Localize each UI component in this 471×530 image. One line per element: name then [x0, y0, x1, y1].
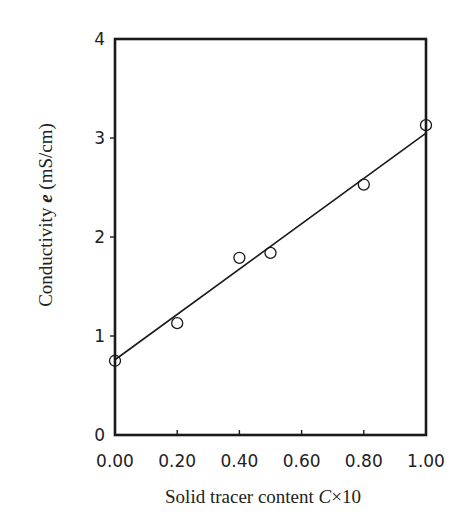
x-tick-label: 1.00: [407, 451, 445, 471]
x-tick-label: 0.40: [220, 451, 258, 471]
y-tick-label: 1: [94, 326, 105, 346]
y-axis-title: Conductivity e (mS/cm): [35, 123, 57, 307]
x-tick-label: 0.60: [283, 451, 321, 471]
chart: 01234 0.000.200.400.600.801.00 Solid tra…: [0, 0, 471, 530]
y-axis-title-text: Conductivity: [35, 203, 56, 307]
plot-frame: [115, 39, 426, 435]
x-axis-title: Solid tracer content C×10: [165, 486, 361, 507]
fit-line: [115, 133, 426, 360]
y-tick-label: 3: [94, 128, 105, 148]
y-tick-label: 4: [94, 29, 105, 49]
x-axis-title-var: C: [319, 486, 332, 507]
data-point-marker: [358, 179, 369, 190]
y-tick-label: 2: [94, 227, 105, 247]
x-tick-label: 0.20: [158, 451, 196, 471]
x-tick-label: 0.00: [96, 451, 134, 471]
x-tick-label: 0.80: [345, 451, 383, 471]
data-point-marker: [234, 252, 245, 263]
x-axis-title-text: Solid tracer content: [165, 486, 319, 507]
x-axis-title-suffix: ×10: [331, 486, 361, 507]
y-axis-title-suffix: (mS/cm): [35, 123, 57, 194]
y-axis: 01234: [94, 29, 115, 445]
data-point-marker: [172, 318, 183, 329]
data-point-marker: [265, 247, 276, 258]
y-tick-label: 0: [94, 425, 105, 445]
